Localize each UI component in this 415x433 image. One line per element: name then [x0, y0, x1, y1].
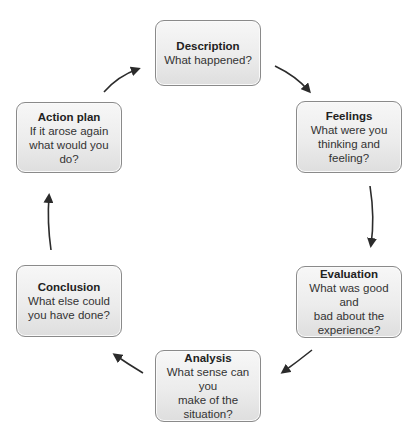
arrow-action-plan-to-description — [104, 69, 138, 92]
arrow-description-to-feelings — [275, 66, 309, 91]
node-question-line: What happened? — [164, 53, 252, 67]
arrow-evaluation-to-analysis — [283, 350, 312, 372]
node-analysis: Analysis What sense can you make of the … — [155, 350, 261, 422]
node-question-line: what would you do? — [21, 138, 117, 166]
node-title: Action plan — [38, 110, 101, 124]
node-question-line: bad about the — [314, 309, 384, 323]
gibbs-reflective-cycle: Description What happened? Feelings What… — [0, 0, 415, 433]
node-action-plan: Action plan If it arose again what would… — [16, 102, 122, 173]
node-conclusion: Conclusion What else could you have done… — [16, 265, 122, 337]
arrow-analysis-to-conclusion — [115, 355, 143, 373]
node-title: Description — [176, 39, 239, 53]
node-title: Evaluation — [320, 267, 378, 281]
node-description: Description What happened? — [155, 20, 261, 86]
node-question-line: experience? — [318, 323, 381, 337]
node-evaluation: Evaluation What was good and bad about t… — [296, 266, 402, 338]
node-question-line: feeling? — [329, 151, 369, 165]
node-title: Analysis — [184, 351, 231, 365]
arrow-feelings-to-evaluation — [370, 186, 373, 245]
node-title: Conclusion — [38, 280, 101, 294]
arrow-conclusion-to-action-plan — [48, 196, 51, 250]
node-question-line: you have done? — [28, 308, 110, 322]
node-feelings: Feelings What were you thinking and feel… — [296, 101, 402, 173]
node-question-line: What else could — [28, 294, 110, 308]
node-title: Feelings — [326, 109, 373, 123]
node-question-line: make of the — [178, 393, 238, 407]
node-question-line: What were you — [311, 123, 388, 137]
node-question-line: thinking and — [318, 137, 380, 151]
node-question-line: What sense can you — [160, 365, 256, 393]
node-question-line: If it arose again — [30, 124, 109, 138]
node-question-line: situation? — [183, 407, 232, 421]
node-question-line: What was good and — [301, 281, 397, 309]
